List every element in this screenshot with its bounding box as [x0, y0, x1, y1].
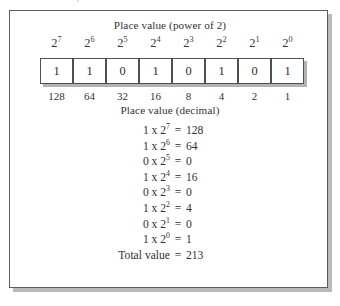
equation-row: 1 x 26=64 — [0, 140, 340, 156]
equation-result: 0 — [183, 186, 222, 199]
equals-sign: = — [173, 218, 183, 231]
equation-row: 1 x 24=16 — [0, 171, 340, 187]
equals-sign: = — [173, 171, 183, 184]
equals-sign: = — [173, 140, 183, 153]
equation-list: 1 x 27=1281 x 26=640 x 25=01 x 24=160 x … — [0, 124, 340, 265]
equation-row: 1 x 20=1 — [0, 233, 340, 249]
exponent-label-row: 2726252423222120 — [40, 34, 304, 52]
bit-cell: 1 — [139, 58, 172, 84]
bit-cell: 1 — [271, 58, 304, 84]
equation-term: 1 x 20 — [118, 233, 173, 246]
bit-cell: 1 — [73, 58, 106, 84]
bit-cell-row: 11010101 — [40, 58, 304, 84]
equals-sign: = — [173, 202, 183, 215]
exponent-label: 24 — [139, 34, 172, 52]
bit-cell: 1 — [40, 58, 73, 84]
equation-row: 1 x 22=4 — [0, 202, 340, 218]
exponent-label: 27 — [40, 34, 73, 52]
decimal-place-value: 4 — [205, 88, 238, 104]
equals-sign: = — [173, 186, 183, 199]
equation-result: 0 — [183, 155, 222, 168]
caption-place-value-power: Place value (power of 2) — [0, 19, 340, 31]
equation-result: 0 — [183, 218, 222, 231]
binary-place-value-figure: ' Place value (power of 2) 2726252423222… — [0, 0, 340, 306]
equation-row: 1 x 27=128 — [0, 124, 340, 140]
exponent-label: 21 — [238, 34, 271, 52]
equation-row: 0 x 21=0 — [0, 218, 340, 234]
decimal-place-value: 8 — [172, 88, 205, 104]
exponent-label: 22 — [205, 34, 238, 52]
caption-place-value-decimal: Place value (decimal) — [0, 104, 340, 116]
equation-result: 1 — [183, 233, 222, 246]
equation-result: 128 — [183, 124, 222, 137]
equation-term: 0 x 23 — [118, 186, 173, 199]
equation-term: 0 x 21 — [118, 218, 173, 231]
decimal-place-value: 1 — [271, 88, 304, 104]
exponent-label: 25 — [106, 34, 139, 52]
equation-result: 64 — [183, 140, 222, 153]
equation-term: 1 x 26 — [118, 140, 173, 153]
exponent-label: 23 — [172, 34, 205, 52]
bit-cell: 1 — [205, 58, 238, 84]
equation-result: 16 — [183, 171, 222, 184]
decimal-place-value-row: 1286432168421 — [40, 88, 304, 104]
decimal-place-value: 2 — [238, 88, 271, 104]
exponent-label: 20 — [271, 34, 304, 52]
bit-cell: 0 — [172, 58, 205, 84]
equation-term: 1 x 27 — [118, 124, 173, 137]
equals-sign: = — [173, 124, 183, 137]
decimal-place-value: 64 — [73, 88, 106, 104]
equation-result: 4 — [183, 202, 222, 215]
equation-term: 1 x 22 — [118, 202, 173, 215]
decimal-place-value: 16 — [139, 88, 172, 104]
decimal-place-value: 128 — [40, 88, 73, 104]
equals-sign: = — [173, 233, 183, 246]
total-value-row: Total value=213 — [0, 249, 340, 265]
bit-cell: 0 — [238, 58, 271, 84]
bit-cell: 0 — [106, 58, 139, 84]
total-label: Total value — [118, 249, 173, 262]
total-equals-sign: = — [173, 249, 183, 262]
equation-term: 0 x 25 — [118, 155, 173, 168]
equation-row: 0 x 25=0 — [0, 155, 340, 171]
equals-sign: = — [173, 155, 183, 168]
decimal-place-value: 32 — [106, 88, 139, 104]
stray-mark-icon: ' — [77, 1, 82, 7]
exponent-label: 26 — [73, 34, 106, 52]
equation-row: 0 x 23=0 — [0, 186, 340, 202]
total-value: 213 — [183, 249, 222, 262]
equation-term: 1 x 24 — [118, 171, 173, 184]
